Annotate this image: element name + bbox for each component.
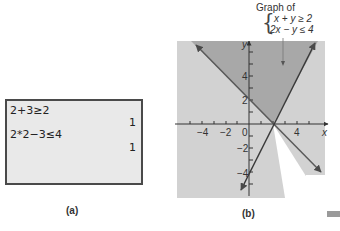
y-tick-label-4: 4 (242, 71, 248, 82)
x-tick-label--2: −2 (220, 127, 232, 138)
y-tick-label--4: −4 (237, 168, 249, 179)
x-tick-label--4: −4 (197, 127, 209, 138)
x-tick-label-4: 4 (294, 127, 300, 138)
page-marker (327, 211, 340, 217)
caption-b: (b) (242, 208, 255, 219)
x-axis-label: x (321, 127, 328, 138)
y-axis-label: y (241, 39, 248, 50)
y-tick-label-2: 2 (242, 95, 248, 106)
x-tick-label-0: 0 (242, 127, 248, 138)
inequality-graph: −4 −2 0 4 x y 4 2 −2 −4 (0, 0, 340, 231)
y-tick-label--2: −2 (237, 143, 249, 154)
